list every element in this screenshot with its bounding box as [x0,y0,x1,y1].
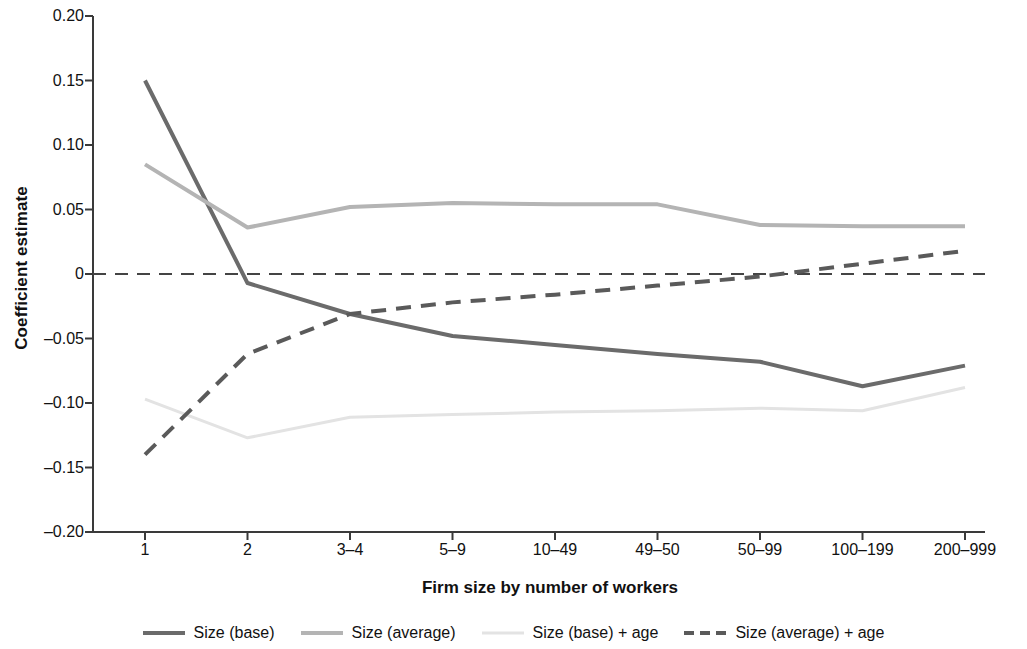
legend-item[interactable]: Size (average) + age [684,624,884,642]
legend-label: Size (base) [194,624,275,642]
legend-swatch-solid-line-icon [301,627,343,639]
legend-swatch-solid-line-icon [482,627,524,639]
x-tick-label: 200–999 [900,541,1027,559]
legend-swatch-solid-line-icon [143,627,185,639]
legend-label: Size (average) + age [735,624,884,642]
series-line-1 [145,164,965,227]
series-line-0 [145,81,965,387]
data-series-group [145,81,965,455]
legend-label: Size (average) [352,624,456,642]
series-line-3 [145,251,965,455]
legend-item[interactable]: Size (base) + age [482,624,659,642]
legend-item[interactable]: Size (base) [143,624,275,642]
series-line-2 [145,388,965,438]
x-axis-tick-labels: 123–45–910–4949–5050–99100–199200–999 [0,541,1027,571]
chart-legend: Size (base)Size (average)Size (base) + a… [0,616,1027,649]
x-axis-title: Firm size by number of workers [100,578,1000,598]
legend-swatch-dashed-line-icon [684,627,726,639]
axis-tick-marks [85,16,965,540]
legend-item[interactable]: Size (average) [301,624,456,642]
legend-label: Size (base) + age [533,624,659,642]
coefficient-estimate-line-chart: Coefficient estimate 0.200.150.100.050–0… [0,0,1027,649]
